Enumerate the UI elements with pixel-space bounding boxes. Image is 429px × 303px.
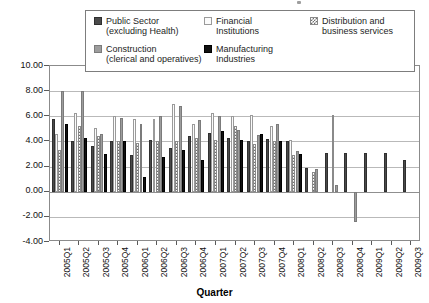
x-axis-label: 2006Q3: [180, 247, 189, 277]
plot-area: [49, 65, 420, 241]
gridline: [50, 116, 419, 117]
legend-swatch-icon: [94, 45, 102, 53]
x-axis-title: Quarter: [0, 287, 429, 298]
legend-item: Public Sector (excluding Health): [94, 16, 179, 36]
bar: [201, 160, 204, 191]
x-axis-label: 2008Q4: [356, 247, 365, 277]
legend-swatch-icon: [310, 17, 318, 25]
x-axis-tick: [313, 241, 314, 245]
legend-item: Financial Institutions: [204, 16, 259, 36]
gridline: [50, 217, 419, 218]
x-axis-tick: [352, 241, 353, 245]
x-axis-label: 2009Q1: [375, 247, 384, 277]
y-axis-label-wrap: 8.00: [0, 86, 43, 95]
y-axis-label: 4.00: [1, 136, 43, 145]
x-axis-label: 2007Q4: [278, 247, 287, 277]
x-axis-label: 2008Q2: [317, 247, 326, 277]
y-axis-label: 2.00: [1, 161, 43, 170]
bar: [65, 124, 68, 192]
bar: [335, 185, 338, 191]
x-axis-label: 2009Q3: [414, 247, 423, 277]
x-axis-label: 2005Q3: [102, 247, 111, 277]
bar: [260, 134, 263, 192]
legend-label: Distribution and business services: [322, 16, 393, 36]
x-axis-tick: [117, 241, 118, 245]
bar: [364, 153, 367, 192]
y-axis-label: 10.00: [1, 61, 43, 70]
legend-swatch-icon: [94, 17, 102, 25]
y-axis-label: 0.00: [1, 186, 43, 195]
bar: [279, 141, 282, 191]
bar: [384, 153, 387, 192]
legend-grid: Public Sector (excluding Health)Financia…: [86, 11, 414, 71]
legend-item: Construction (clerical and operatives): [94, 44, 202, 64]
y-axis-label-wrap: 0.00: [0, 186, 43, 195]
legend-item: Distribution and business services: [310, 16, 393, 36]
x-axis-label: 2007Q3: [258, 247, 267, 277]
y-axis-label: 8.00: [1, 86, 43, 95]
x-axis-tick: [78, 241, 79, 245]
y-axis-tick: [44, 241, 49, 242]
x-axis-tick: [293, 241, 294, 245]
bar: [305, 168, 308, 192]
y-axis-label-wrap: 10.00: [0, 61, 43, 70]
y-axis-label: -2.00: [1, 211, 43, 220]
x-axis-tick: [156, 241, 157, 245]
bar: [182, 150, 185, 191]
x-axis-tick: [137, 241, 138, 245]
x-axis-label: 2006Q2: [160, 247, 169, 277]
x-axis-tick: [176, 241, 177, 245]
legend-label: Public Sector (excluding Health): [106, 16, 179, 36]
legend: Public Sector (excluding Health)Financia…: [85, 10, 415, 72]
gridline: [50, 91, 419, 92]
decorative-speck: [297, 1, 301, 4]
legend-item: Manufacturing Industries: [204, 44, 273, 64]
bar: [403, 160, 406, 191]
y-axis-label-wrap: -4.00: [0, 237, 43, 246]
legend-swatch-icon: [204, 17, 212, 25]
bar: [84, 138, 87, 192]
x-axis-label: 2008Q3: [336, 247, 345, 277]
x-axis-tick: [391, 241, 392, 245]
legend-swatch-icon: [204, 45, 212, 53]
x-axis-tick: [59, 241, 60, 245]
x-axis-tick: [195, 241, 196, 245]
x-axis-label: 2008Q1: [297, 247, 306, 277]
x-axis-tick: [254, 241, 255, 245]
y-axis-label-wrap: 2.00: [0, 161, 43, 170]
legend-label: Construction (clerical and operatives): [106, 44, 202, 64]
x-axis-label: 2006Q4: [199, 247, 208, 277]
bar: [315, 169, 318, 192]
bar: [123, 141, 126, 191]
bar: [143, 177, 146, 192]
bar: [354, 192, 357, 222]
y-axis-label-wrap: -2.00: [0, 211, 43, 220]
gridline: [50, 192, 419, 193]
x-axis-label: 2005Q4: [121, 247, 130, 277]
x-axis-tick: [371, 241, 372, 245]
bar: [325, 153, 328, 192]
x-axis-label: 2007Q1: [219, 247, 228, 277]
x-axis-label: 2005Q2: [82, 247, 91, 277]
bar: [332, 115, 335, 192]
y-axis-label: 6.00: [1, 111, 43, 120]
x-axis-label: 2006Q1: [141, 247, 150, 277]
bar: [162, 157, 165, 192]
bar: [299, 154, 302, 192]
legend-label: Manufacturing Industries: [216, 44, 273, 64]
x-axis-tick: [235, 241, 236, 245]
y-axis-label-wrap: 4.00: [0, 136, 43, 145]
x-axis-label: 2007Q2: [239, 247, 248, 277]
x-axis-tick: [410, 241, 411, 245]
x-axis-tick: [215, 241, 216, 245]
bar-chart: 10.008.006.004.002.000.00-2.00-4.00 2005…: [0, 0, 429, 303]
bar: [104, 154, 107, 192]
x-axis-tick: [332, 241, 333, 245]
bar: [221, 131, 224, 191]
bar: [344, 153, 347, 192]
x-axis-tick: [98, 241, 99, 245]
y-axis-label: -4.00: [1, 237, 43, 246]
legend-label: Financial Institutions: [216, 16, 259, 36]
bar: [240, 140, 243, 192]
y-axis-label-wrap: 6.00: [0, 111, 43, 120]
